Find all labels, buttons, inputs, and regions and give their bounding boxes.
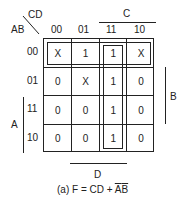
cell-11-01: 0 <box>72 96 100 125</box>
cell-01-01: X <box>72 68 100 97</box>
a-bracket <box>23 97 24 153</box>
cell-11-10: 0 <box>127 96 155 125</box>
c-bracket <box>99 22 156 23</box>
cell-01-10: 0 <box>127 68 155 97</box>
cell-10-00: 0 <box>44 125 72 154</box>
col-header-01: 01 <box>78 25 89 35</box>
group-ab-bar-loop <box>47 42 151 65</box>
col-var-label: CD <box>28 10 42 20</box>
b-label: B <box>170 92 177 102</box>
row-header-11: 11 <box>27 104 37 114</box>
b-bracket <box>165 67 166 124</box>
row-header-10: 10 <box>27 133 38 143</box>
cell-10-01: 0 <box>72 125 100 154</box>
row-header-01: 01 <box>27 76 38 86</box>
cell-11-00: 0 <box>44 96 72 125</box>
c-label: C <box>123 9 130 19</box>
kmap-grid: X 1 1 X 0 X 1 0 0 0 1 0 0 0 1 0 <box>43 38 154 152</box>
group-cd-loop <box>103 45 123 149</box>
cell-10-10: 0 <box>127 125 155 154</box>
a-label: A <box>11 120 18 130</box>
row-header-00: 00 <box>27 47 38 57</box>
col-header-11: 11 <box>106 25 116 35</box>
d-bracket <box>70 163 127 164</box>
d-label: D <box>94 170 101 180</box>
caption-prefix: (a) F = CD + <box>57 184 115 195</box>
caption-b-bar: B <box>121 184 128 195</box>
cell-01-00: 0 <box>44 68 72 97</box>
caption: (a) F = CD + AB <box>57 184 128 195</box>
col-header-00: 00 <box>51 25 62 35</box>
col-header-10: 10 <box>134 25 145 35</box>
row-var-label: AB <box>11 25 24 35</box>
